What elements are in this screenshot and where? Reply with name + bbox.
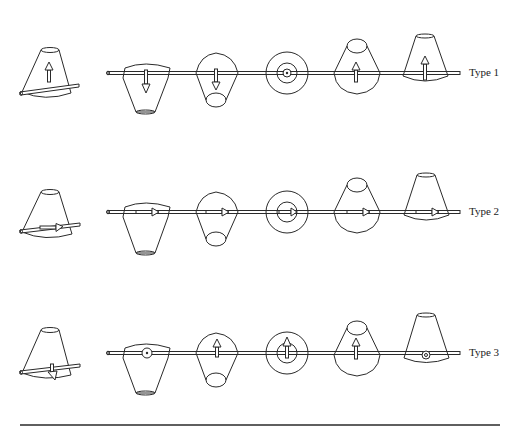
row-label-type-3: Type 3 [469,346,499,358]
cone-orientation-diagram [0,0,518,431]
reference-cone-1 [20,48,80,98]
reference-cone-2 [20,190,81,238]
row-type-2 [20,173,461,255]
rod-3 [107,351,461,355]
cone-upright [404,313,449,363]
cone-bulb-inverted [196,192,238,246]
row-type-3 [20,313,461,395]
cone-bulb-inverted [196,53,238,107]
cone-bulb-inverted [196,333,238,387]
row-label-type-1: Type 1 [469,66,499,78]
cone-bulb-upright [334,321,380,376]
cone-bulb-upright [334,178,380,233]
reference-cone-3 [20,328,81,381]
cone-bulb-upright [334,39,380,94]
row-type-1 [20,34,461,114]
row-label-type-2: Type 2 [469,205,499,217]
